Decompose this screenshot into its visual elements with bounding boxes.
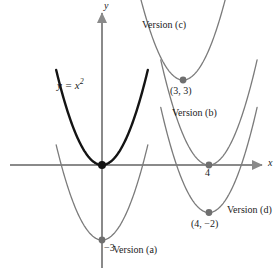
vertex-point-y-x-2 xyxy=(98,161,106,169)
label-version-c: Version (c) xyxy=(142,20,186,30)
label-version-d: Version (d) xyxy=(227,205,272,215)
vertex-point-version-c xyxy=(180,77,187,84)
base-curve-label: y = x2 xyxy=(57,78,84,91)
vertex-point-version-d xyxy=(206,209,213,216)
curve-version-d xyxy=(161,107,257,212)
label-tick-four: 4 xyxy=(205,168,210,178)
curve-version-c xyxy=(135,0,231,80)
label-version-a: Version (a) xyxy=(113,245,157,255)
label-tick-neg-three: −3 xyxy=(104,243,115,253)
base-curve-label-exponent: 2 xyxy=(80,77,84,86)
label-version-b: Version (b) xyxy=(172,108,217,118)
y-axis-label: y xyxy=(104,1,108,11)
base-curve-label-eq: = x xyxy=(62,79,80,91)
label-point-4-neg2: (4, −2) xyxy=(191,219,218,229)
parabola-transformations-figure: y = x2 Version (c) (3, 3) Version (b) 4 … xyxy=(0,0,279,275)
plot-canvas xyxy=(0,0,279,275)
axes-group xyxy=(10,13,262,268)
x-axis-label: x xyxy=(268,158,272,168)
label-point-3-3: (3, 3) xyxy=(170,86,192,96)
